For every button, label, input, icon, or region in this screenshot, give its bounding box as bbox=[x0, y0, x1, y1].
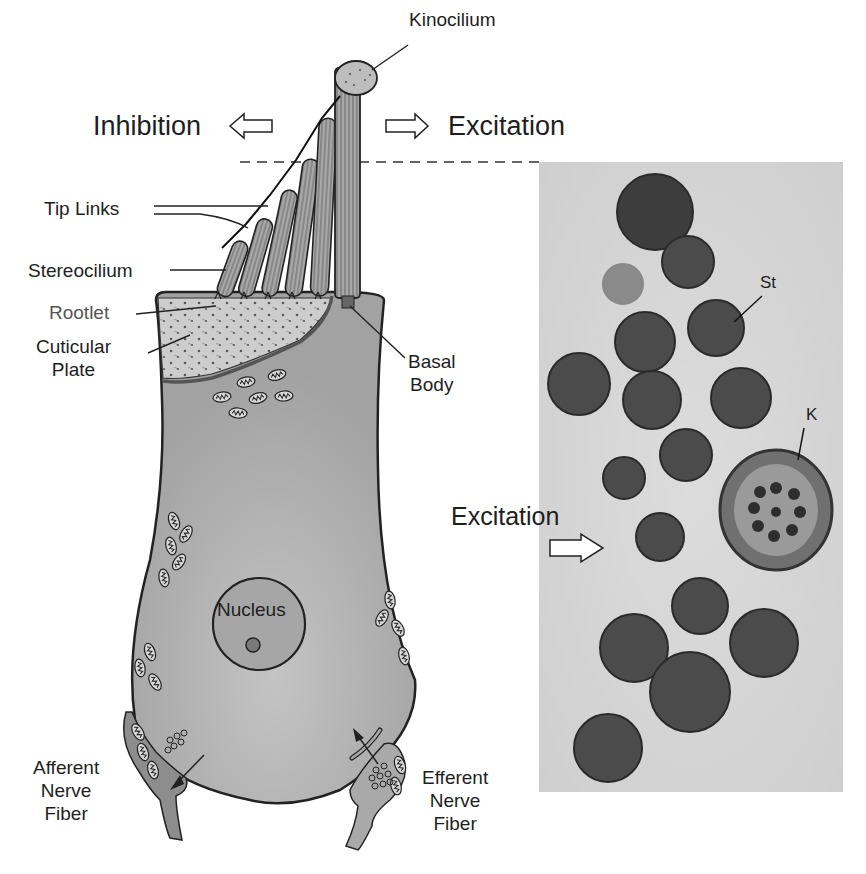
nucleolus bbox=[246, 638, 260, 652]
hair-cell-figure: Kinocilium Inhibition Excitation Tip Lin… bbox=[0, 0, 866, 874]
label-excitation-top: Excitation bbox=[448, 113, 565, 140]
label-rootlet: Rootlet bbox=[49, 303, 109, 322]
label-basal-body: Basal Body bbox=[408, 350, 456, 396]
kinocilium-bulb bbox=[335, 61, 377, 95]
label-nucleus: Nucleus bbox=[217, 600, 286, 619]
excitation-arrow bbox=[386, 114, 428, 138]
stereocilia-bundle bbox=[215, 61, 377, 308]
label-tip-links: Tip Links bbox=[44, 199, 119, 218]
micrograph-panel bbox=[539, 162, 843, 792]
label-cuticular-plate: Cuticular Plate bbox=[36, 335, 111, 381]
label-efferent-nerve-fiber: Efferent Nerve Fiber bbox=[422, 766, 488, 835]
label-kinocilium: Kinocilium bbox=[409, 10, 496, 29]
label-micrograph-excitation: Excitation bbox=[451, 504, 559, 529]
basal-body bbox=[342, 296, 354, 308]
label-k: K bbox=[806, 406, 817, 423]
kinocilium-profile bbox=[720, 450, 832, 570]
label-stereocilium: Stereocilium bbox=[28, 261, 133, 280]
nucleus bbox=[213, 578, 305, 670]
label-st: St bbox=[760, 274, 776, 291]
label-inhibition: Inhibition bbox=[93, 113, 201, 140]
label-afferent-nerve-fiber: Afferent Nerve Fiber bbox=[33, 756, 99, 825]
kinocilium bbox=[335, 68, 360, 298]
inhibition-arrow bbox=[230, 114, 272, 138]
